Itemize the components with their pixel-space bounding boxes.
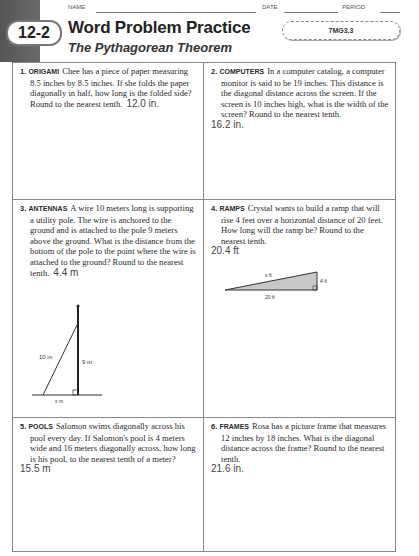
- problem-number: 5.: [20, 422, 26, 431]
- lesson-badge: 12-2: [6, 20, 62, 46]
- problem-2: 2. COMPUTERSIn a computer catalog, a com…: [203, 62, 396, 199]
- problem-1: 1. ORIGAMIChee has a piece of paper meas…: [12, 62, 203, 199]
- problem-keyword: POOLS: [28, 423, 53, 430]
- page-subtitle: The Pythagorean Theorem: [68, 40, 232, 55]
- problem-answer: 15.5 m: [30, 464, 197, 475]
- height-label: 4 ft: [320, 278, 328, 284]
- height-label: 9 m: [82, 359, 92, 365]
- problem-number: 6.: [211, 422, 217, 431]
- problem-number: 1.: [20, 67, 26, 76]
- problem-keyword: FRAMES: [219, 423, 249, 430]
- problem-answer: 16.2 in.: [221, 120, 390, 131]
- problem-5: 5. POOLSSalomon swims diagonally across …: [12, 417, 203, 552]
- date-field[interactable]: [284, 12, 338, 13]
- ramp-diagram: x ft 4 ft 20 ft: [203, 199, 396, 417]
- standard-badge: 7MG3.3: [282, 21, 400, 40]
- problem-6: 6. FRAMESRosa has a picture frame that m…: [203, 417, 396, 552]
- hyp-label: 10 m: [39, 354, 52, 360]
- name-label: NAME: [68, 4, 85, 10]
- page-title: Word Problem Practice: [68, 18, 251, 38]
- problem-keyword: COMPUTERS: [219, 68, 264, 75]
- name-field[interactable]: [96, 12, 256, 13]
- problem-keyword: ORIGAMI: [28, 68, 59, 75]
- base-label: 20 ft: [265, 294, 275, 300]
- period-label: PERIOD: [342, 4, 365, 10]
- problem-text: Salomon swims diagonally across his pool…: [30, 421, 196, 464]
- problem-answer: 12.0 in.: [126, 98, 159, 109]
- problem-answer: 21.6 in.: [221, 464, 390, 475]
- base-label: x m: [55, 398, 63, 404]
- date-label: DATE: [262, 4, 278, 10]
- antenna-diagram: 10 m 9 m x m: [12, 199, 203, 417]
- period-field[interactable]: [380, 12, 400, 13]
- problem-number: 2.: [211, 67, 217, 76]
- hyp-label: x ft: [265, 272, 272, 278]
